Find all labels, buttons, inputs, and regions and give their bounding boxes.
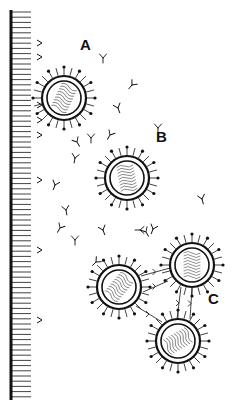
antibody-icon [100,54,107,63]
bridging-antibody [143,281,168,292]
antibody-icon [62,205,70,215]
virus-antibody-diagram [0,0,240,413]
virus-particle-b [94,145,159,210]
antibody-icon [104,130,115,141]
antibody-icon [148,224,158,235]
antibody-icon [72,137,83,148]
virus-particle-c2 [159,232,224,297]
cell-membrane [11,10,42,400]
label-c: C [208,291,219,306]
antibody-icon [98,225,108,236]
bridging-antibody [188,288,192,319]
antibody-icon [90,257,101,268]
antibody-icon [88,134,95,143]
antibody-icon [126,80,137,91]
antibody-icon [50,180,60,191]
antibody-icon [135,227,144,234]
label-a: A [80,37,91,52]
antibody-icon [54,223,65,234]
antibody-icon [198,194,207,205]
antibody-icon [113,103,123,114]
antibody-icon [71,153,79,163]
label-b: B [156,129,167,144]
antibody-icon [72,236,79,245]
bridging-antibody [136,306,162,322]
